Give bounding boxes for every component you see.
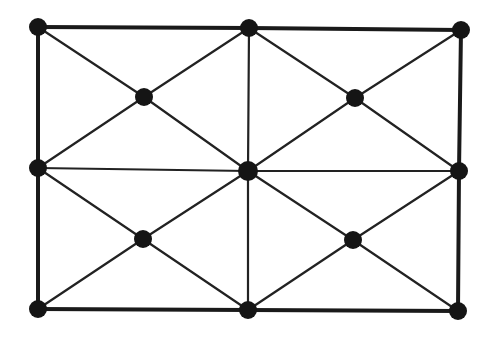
edge-n5-c4 (248, 171, 353, 240)
node-n7 (29, 300, 47, 318)
edge-n7-n8 (38, 309, 248, 310)
edge-c1-n4 (38, 97, 144, 168)
edge-n8-n9 (248, 310, 458, 311)
edge-n2-n3 (249, 28, 461, 30)
edge-n6-n9 (458, 171, 459, 311)
edge-c4-n9 (353, 240, 458, 311)
node-c4 (344, 231, 362, 249)
node-n5 (238, 161, 258, 181)
edge-n6-c4 (353, 171, 459, 240)
edge-c4-n8 (248, 240, 353, 310)
edge-n2-n5 (248, 28, 249, 171)
edge-n1-c1 (38, 27, 144, 97)
edge-n3-c2 (355, 30, 461, 98)
graph-diagram (0, 0, 497, 338)
node-n2 (240, 19, 258, 37)
edge-n4-n5 (38, 168, 248, 171)
node-n4 (29, 159, 47, 177)
edge-c1-n5 (144, 97, 248, 171)
node-c3 (134, 230, 152, 248)
node-n6 (450, 162, 468, 180)
node-n8 (239, 301, 257, 319)
edge-c2-n6 (355, 98, 459, 171)
edge-n5-c3 (143, 171, 248, 239)
node-c2 (346, 89, 364, 107)
edge-c3-n7 (38, 239, 143, 309)
node-n9 (449, 302, 467, 320)
edge-c2-n5 (248, 98, 355, 171)
node-n3 (452, 21, 470, 39)
edge-c3-n8 (143, 239, 248, 310)
edge-n4-c3 (38, 168, 143, 239)
node-n1 (29, 18, 47, 36)
edge-n1-n2 (38, 27, 249, 28)
edge-n3-n6 (459, 30, 461, 171)
node-c1 (135, 88, 153, 106)
edge-n2-c1 (144, 28, 249, 97)
edge-n2-c2 (249, 28, 355, 98)
